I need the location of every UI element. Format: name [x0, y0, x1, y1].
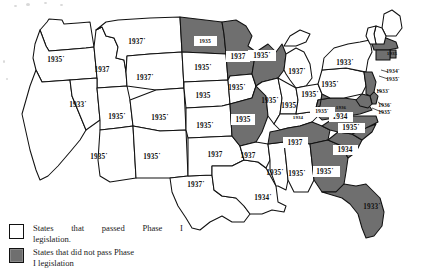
year-label-NY: 1933˙ — [336, 58, 353, 67]
year-label-NE: 1935 — [196, 92, 211, 100]
legend-label-passed-line1: States that passed Phase I — [33, 223, 183, 234]
year-label-UT: 1935˙ — [108, 112, 125, 121]
year-label-NV: 1933˙ — [69, 100, 86, 109]
state-FL[interactable] — [322, 184, 384, 238]
year-label-OH: 1935˙ — [301, 90, 318, 99]
state-ME[interactable] — [382, 10, 402, 36]
year-label-WI: 1935˙ — [253, 51, 270, 60]
year-label-SD: 1935˙ — [194, 63, 211, 72]
legend-label-not-passed-line2: I legislation — [33, 258, 183, 269]
year-label-MI: 1937˙ — [288, 67, 305, 76]
year-label-KY: 1934 — [293, 115, 304, 120]
year-label-ID: 1937 — [95, 66, 110, 74]
year-label-MO: 1935 — [236, 116, 251, 124]
year-label-MN: 1937 — [231, 53, 246, 61]
state-ND[interactable] — [180, 17, 226, 54]
state-CO[interactable] — [130, 88, 186, 131]
state-NY[interactable] — [322, 40, 372, 72]
legend-label-passed: States that passed Phase I legislation. — [33, 223, 183, 244]
state-WY[interactable] — [126, 52, 184, 90]
year-label-OK: 1937 — [208, 151, 223, 159]
year-label-AL: 1935˙ — [288, 169, 305, 178]
year-label-GA: 1935˙ — [316, 167, 333, 176]
legend-item-passed: States that passed Phase I legislation. — [9, 223, 219, 244]
legend-label-not-passed: States that did not pass Phase I legisla… — [33, 247, 183, 268]
year-label-FL: 1933˙ — [363, 202, 380, 211]
year-label-PA: 1935˙ — [321, 80, 338, 89]
year-label-ND: 1935 — [199, 38, 211, 44]
state-UT[interactable] — [97, 86, 133, 130]
year-label-NJ: 1933˙ — [376, 88, 390, 94]
year-label-IA: 1935˙ — [228, 83, 245, 92]
year-label-NC: 1935˙ — [342, 123, 359, 132]
state-AL[interactable] — [284, 142, 314, 192]
year-label-IL: 1935˙ — [261, 96, 278, 105]
year-label-TX: 1937˙ — [187, 180, 204, 189]
legend: States that passed Phase I legislation. … — [9, 223, 219, 271]
legend-swatch-not-passed — [9, 248, 24, 263]
state-MI[interactable] — [284, 30, 312, 88]
year-label-CT: 1935˙ — [386, 76, 400, 82]
year-label-VA2: 1936 — [336, 105, 347, 110]
state-WA[interactable] — [40, 19, 94, 51]
year-label-NM: 1935˙ — [143, 152, 160, 161]
legend-swatch-passed — [9, 224, 24, 239]
year-label-SC: 1934 — [338, 146, 353, 154]
legend-item-not-passed: States that did not pass Phase I legisla… — [9, 247, 219, 268]
year-label-OR: 1935˙ — [47, 55, 64, 64]
year-label-TN: 1937 — [288, 139, 303, 147]
year-label-LA: 1934˙ — [254, 193, 271, 202]
year-label-WV: 1935˙ — [315, 108, 329, 114]
year-label-MD: 1935˙ — [378, 109, 392, 115]
year-label-KS: 1935˙ — [196, 121, 213, 130]
year-label-MS: 1935˙ — [266, 168, 283, 177]
year-label-WY: 1937˙ — [136, 73, 153, 82]
legend-label-passed-line2: legislation. — [33, 234, 183, 245]
legend-label-not-passed-line1: States that did not pass Phase — [33, 247, 183, 258]
year-label-MA: 1935 — [387, 51, 398, 56]
year-label-AZ: 1935˙ — [90, 152, 107, 161]
year-label-MT: 1937˙ — [128, 37, 145, 46]
year-label-IN: 1935˙ — [281, 101, 298, 110]
year-label-RI: 1934˙ — [386, 68, 400, 74]
year-label-CO: 1935˙ — [151, 113, 168, 122]
year-label-AR: 1937 — [241, 152, 256, 160]
